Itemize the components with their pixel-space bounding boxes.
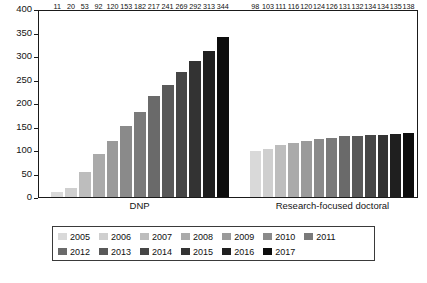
legend-label: 2014 [152,247,172,257]
bar-value-label: 120 [300,3,312,11]
bar-item[interactable]: 134 [377,11,390,197]
legend-swatch-icon [58,233,67,240]
bar-item[interactable]: 116 [287,11,300,197]
bar-group-dnp: 11205392120153182217241269292313344 [50,11,230,197]
bar[interactable] [176,72,188,197]
legend-item-2010[interactable]: 2010 [263,232,295,242]
legend-item-2012[interactable]: 2012 [58,247,90,257]
bar-item[interactable]: 132 [351,11,364,197]
bar[interactable] [217,37,229,197]
legend-item-2016[interactable]: 2016 [222,247,254,257]
bar[interactable] [326,138,337,197]
legend-label: 2013 [111,247,131,257]
legend-item-2007[interactable]: 2007 [140,232,172,242]
bar[interactable] [107,141,119,197]
bar-item[interactable]: 217 [147,11,161,197]
legend-label: 2012 [70,247,90,257]
bar-value-label: 153 [120,3,132,11]
bar-item[interactable]: 138 [402,11,415,197]
bar-item[interactable]: 153 [119,11,133,197]
bar[interactable] [250,151,261,197]
bar-item[interactable]: 92 [92,11,106,197]
bar-item[interactable]: 344 [216,11,230,197]
bar-value-label: 134 [377,3,389,11]
bar-value-label: 241 [162,3,174,11]
bar[interactable] [314,139,325,197]
bar-item[interactable]: 103 [262,11,275,197]
legend-swatch-icon [181,233,190,240]
bar-item[interactable]: 120 [106,11,120,197]
bar-item[interactable]: 135 [389,11,402,197]
legend-item-2011[interactable]: 2011 [304,232,335,242]
bar[interactable] [162,85,174,197]
bar-chart-figure: 050100150200250300350400 112053921201531… [0,0,427,283]
legend-swatch-icon [99,233,108,240]
legend-item-2006[interactable]: 2006 [99,232,131,242]
legend-item-2013[interactable]: 2013 [99,247,131,257]
bar[interactable] [51,192,63,197]
bar[interactable] [378,135,389,197]
bar[interactable] [301,141,312,197]
bar-item[interactable]: 182 [133,11,147,197]
bar-value-label: 313 [203,3,215,11]
bar-item[interactable]: 20 [64,11,78,197]
bar[interactable] [275,145,286,197]
bar-value-label: 269 [175,3,187,11]
bar-item[interactable]: 98 [249,11,262,197]
y-tick-label: 200 [16,98,32,108]
bar-item[interactable]: 53 [78,11,92,197]
legend-item-2015[interactable]: 2015 [181,247,213,257]
bar-item[interactable]: 241 [161,11,175,197]
y-tick-label: 0 [27,192,32,202]
bar[interactable] [339,136,350,197]
y-tick-label: 400 [16,4,32,14]
bar-item[interactable]: 111 [274,11,287,197]
y-tick-label: 150 [16,122,32,132]
bar-item[interactable]: 126 [325,11,338,197]
bar[interactable] [65,188,77,197]
bar-item[interactable]: 313 [202,11,216,197]
bar[interactable] [288,143,299,197]
bar[interactable] [403,133,414,197]
bar-item[interactable]: 120 [300,11,313,197]
bar[interactable] [79,172,91,197]
bar-item[interactable]: 11 [50,11,64,197]
bar-item[interactable]: 131 [338,11,351,197]
legend-swatch-icon [181,248,190,255]
x-axis-group-labels: DNP Research-focused doctoral [38,200,418,214]
legend-swatch-icon [263,248,272,255]
bar[interactable] [120,126,132,197]
bar[interactable] [148,96,160,197]
bar-value-label: 98 [251,3,259,11]
legend-item-2017[interactable]: 2017 [263,247,295,257]
legend-label: 2008 [193,232,213,242]
bar-value-label: 138 [403,3,415,11]
bar-item[interactable]: 269 [175,11,189,197]
bar[interactable] [365,135,376,197]
legend-item-2009[interactable]: 2009 [222,232,254,242]
legend-swatch-icon [222,233,231,240]
bar-value-label: 103 [262,3,274,11]
legend-item-2005[interactable]: 2005 [58,232,90,242]
bar[interactable] [203,51,215,197]
legend-swatch-icon [263,233,272,240]
bar[interactable] [134,112,146,197]
bar-value-label: 111 [275,3,286,11]
bar[interactable] [352,136,363,197]
legend-row-1: 2005200620072008200920102011 [58,229,370,244]
y-tick-label: 300 [16,51,32,61]
bar-item[interactable]: 124 [313,11,326,197]
bar-value-label: 92 [95,3,103,11]
legend-swatch-icon [222,248,231,255]
bar[interactable] [390,134,401,197]
legend-item-2014[interactable]: 2014 [140,247,172,257]
bar[interactable] [189,61,201,197]
legend-swatch-icon [140,233,149,240]
bar[interactable] [93,154,105,197]
bar-item[interactable]: 134 [364,11,377,197]
bar[interactable] [263,149,274,197]
legend: 2005200620072008200920102011 20122013201… [52,226,375,261]
legend-label: 2006 [111,232,131,242]
bar-item[interactable]: 292 [188,11,202,197]
legend-item-2008[interactable]: 2008 [181,232,213,242]
